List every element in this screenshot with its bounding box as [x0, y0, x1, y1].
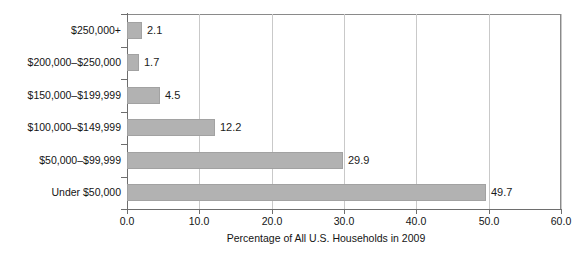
x-axis-tick: [561, 209, 562, 214]
bar-value-label: 12.2: [220, 119, 241, 136]
x-axis-tick: [272, 209, 273, 214]
x-axis-tick-label: 50.0: [469, 215, 509, 227]
x-axis-tick: [199, 209, 200, 214]
x-axis-tick: [127, 209, 128, 214]
category-label: $250,000+: [0, 22, 121, 39]
bar: [127, 119, 215, 136]
bar-value-label: 2.1: [147, 22, 162, 39]
category-label: $100,000–$149,999: [0, 119, 121, 136]
y-axis-tick: [121, 177, 127, 178]
x-axis-tick-label: 10.0: [179, 215, 219, 227]
x-axis-tick-label: 30.0: [324, 215, 364, 227]
y-axis-tick: [121, 144, 127, 145]
bar: [127, 22, 142, 39]
y-axis-line: [127, 13, 128, 210]
bar-value-label: 4.5: [165, 87, 180, 104]
y-axis-tick: [121, 47, 127, 48]
bar: [127, 184, 486, 201]
gridline: [272, 14, 273, 209]
gridline: [344, 14, 345, 209]
x-axis-tick-label: 0.0: [107, 215, 147, 227]
x-axis-tick: [344, 209, 345, 214]
x-axis-tick-label: 60.0: [541, 215, 581, 227]
category-label: $50,000–$99,999: [0, 152, 121, 169]
bar-value-label: 49.7: [491, 184, 512, 201]
gridline: [489, 14, 490, 209]
bar: [127, 54, 139, 71]
bar-value-label: 1.7: [144, 54, 159, 71]
x-axis-tick: [489, 209, 490, 214]
gridline: [416, 14, 417, 209]
category-label: $200,000–$250,000: [0, 54, 121, 71]
bar: [127, 152, 343, 169]
y-axis-tick: [121, 14, 127, 15]
gridline: [561, 14, 562, 209]
gridline: [199, 14, 200, 209]
bar-value-label: 29.9: [348, 152, 369, 169]
category-label: $150,000–$199,999: [0, 87, 121, 104]
x-axis-tick: [416, 209, 417, 214]
category-label: Under $50,000: [0, 184, 121, 201]
x-axis-tick-label: 40.0: [396, 215, 436, 227]
y-axis-tick: [121, 112, 127, 113]
x-axis-title: Percentage of All U.S. Households in 200…: [0, 232, 588, 244]
y-axis-tick: [121, 79, 127, 80]
bar: [127, 87, 160, 104]
x-axis-tick-label: 20.0: [252, 215, 292, 227]
bar-chart-figure: $250,000+$200,000–$250,000$150,000–$199,…: [0, 0, 588, 256]
